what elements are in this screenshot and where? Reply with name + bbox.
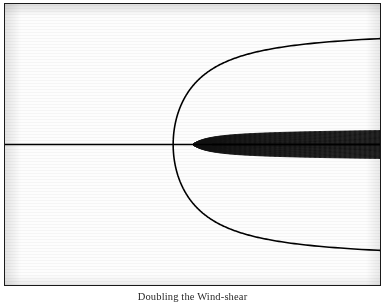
figure-caption: Doubling the Wind-shear xyxy=(0,291,385,302)
figure-root: Doubling the Wind-shear xyxy=(0,0,385,302)
streamline-plot-frame xyxy=(4,3,381,286)
streamline-plot xyxy=(5,4,380,285)
